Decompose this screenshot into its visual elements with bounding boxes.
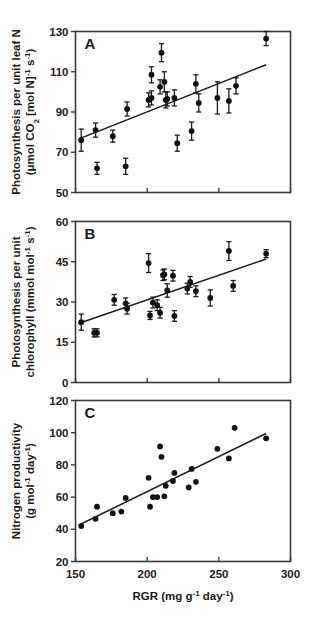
data-point	[159, 50, 165, 56]
ytick-label-c-80: 80	[56, 459, 69, 471]
data-point	[123, 495, 129, 501]
yaxis-title-b-line2: chlorophyll (mmol mol-1 s-1)	[23, 226, 37, 377]
yaxis-title-c-line1: Nitrogen productivity	[10, 422, 22, 539]
data-point	[193, 479, 199, 485]
data-point	[189, 128, 195, 134]
xtick-label-150: 150	[66, 568, 85, 580]
data-point	[263, 36, 269, 42]
panel-letter-b: B	[85, 225, 96, 242]
data-point	[147, 504, 153, 510]
ytick-label-b-15: 15	[56, 336, 69, 348]
data-point	[161, 79, 167, 85]
ytick-label-c-120: 120	[49, 395, 68, 407]
xtick-label-250: 250	[209, 568, 228, 580]
ytick-label-b-45: 45	[56, 256, 69, 268]
xaxis-title: RGR (mg g-1 day-1)	[132, 589, 233, 603]
multi-panel-scatter-figure: 507090110130A015304560B20406080100120CPh…	[0, 0, 310, 622]
ytick-label-c-100: 100	[49, 427, 68, 439]
figure-panel-group: 507090110130A015304560B20406080100120CPh…	[0, 0, 310, 622]
data-point	[174, 140, 180, 146]
data-point	[157, 84, 163, 90]
data-point	[172, 470, 178, 476]
ytick-label-a-90: 90	[56, 106, 69, 118]
plot-frame-a	[76, 32, 291, 193]
panel-c: 20406080100120C	[49, 395, 290, 568]
data-point	[146, 260, 152, 266]
data-point	[263, 435, 269, 441]
data-point	[94, 165, 100, 171]
ytick-label-a-110: 110	[50, 66, 69, 78]
data-point	[161, 271, 167, 277]
panel-letter-a: A	[85, 35, 96, 52]
yaxis-title-c-line2: (g mol-1 day-1)	[23, 443, 37, 519]
ytick-label-a-70: 70	[56, 146, 69, 158]
data-point	[196, 100, 202, 106]
data-point	[172, 313, 178, 319]
ytick-label-c-60: 60	[56, 491, 69, 503]
data-point	[226, 456, 232, 462]
data-point	[186, 485, 192, 491]
data-point	[124, 106, 130, 112]
ytick-label-c-40: 40	[56, 523, 69, 535]
data-point	[123, 163, 129, 169]
data-point	[161, 493, 167, 499]
panel-letter-c: C	[85, 404, 96, 421]
data-point	[263, 251, 269, 257]
panel-a: 507090110130A	[49, 26, 290, 199]
data-point	[187, 279, 193, 285]
panel-b: 015304560B	[56, 216, 291, 389]
ytick-label-c-20: 20	[56, 556, 69, 568]
data-point	[159, 454, 165, 460]
data-point	[78, 523, 84, 529]
data-point	[164, 288, 170, 294]
data-point	[226, 248, 232, 254]
yaxis-title-a-line2: (μmol CO2 [mol N]-1 s-1)	[23, 48, 41, 175]
ytick-label-a-50: 50	[56, 187, 69, 199]
plot-frame-b	[76, 222, 291, 383]
data-point	[170, 273, 176, 279]
data-point	[170, 478, 176, 484]
xtick-label-300: 300	[281, 568, 300, 580]
data-point	[149, 72, 155, 78]
data-point	[163, 483, 169, 489]
data-point	[147, 313, 153, 319]
yaxis-title-b-line1: Photosynthesis per unit	[10, 236, 22, 367]
data-point	[111, 297, 117, 303]
data-point	[94, 330, 100, 336]
data-point	[164, 96, 170, 102]
xtick-label-200: 200	[138, 568, 157, 580]
data-point	[124, 306, 130, 312]
data-point	[172, 95, 178, 101]
data-point	[193, 81, 199, 87]
data-point	[93, 516, 99, 522]
data-point	[154, 494, 160, 500]
data-point	[207, 295, 213, 301]
data-point	[110, 133, 116, 139]
data-point	[226, 98, 232, 104]
data-point	[215, 95, 221, 101]
data-point	[146, 475, 152, 481]
ytick-label-a-130: 130	[49, 26, 68, 38]
ytick-label-b-0: 0	[62, 377, 68, 389]
data-point	[157, 310, 163, 316]
ytick-label-b-30: 30	[56, 296, 69, 308]
data-point	[233, 83, 239, 89]
regression-line-b	[78, 259, 266, 323]
plot-frame-c	[76, 401, 291, 562]
data-point	[215, 446, 221, 452]
yaxis-title-a-line1: Photosynthesis per unit leaf N	[10, 29, 22, 195]
data-point	[184, 286, 190, 292]
data-point	[78, 137, 84, 143]
data-point	[193, 288, 199, 294]
data-point	[232, 425, 238, 431]
data-point	[118, 509, 124, 515]
ytick-label-b-60: 60	[56, 216, 69, 228]
data-point	[93, 127, 99, 133]
data-point	[189, 466, 195, 472]
data-point	[157, 443, 163, 449]
data-point	[149, 95, 155, 101]
data-point	[94, 504, 100, 510]
data-point	[110, 510, 116, 516]
data-point	[78, 319, 84, 325]
data-point	[230, 283, 236, 289]
